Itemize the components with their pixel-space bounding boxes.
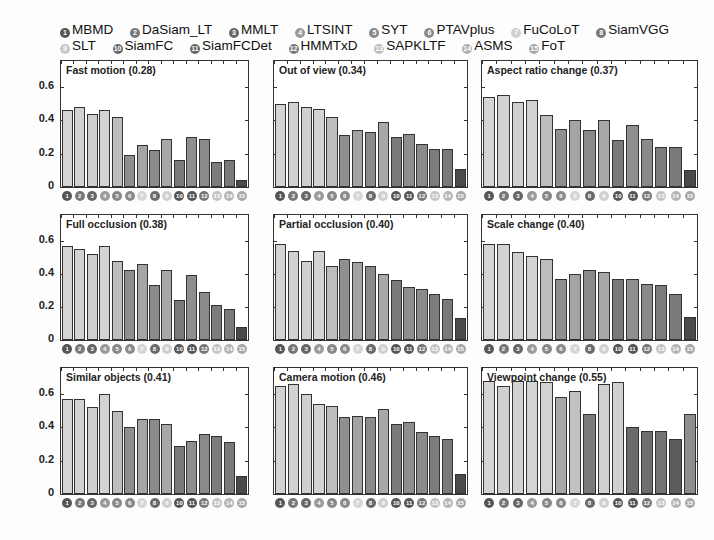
tracker-number-badge-icon: 8 — [366, 344, 376, 354]
legend-item: 5SYT — [369, 22, 407, 38]
tracker-number-badge-icon: 12 — [199, 344, 209, 354]
tracker-number-badge-icon: 15 — [237, 498, 247, 508]
legend-item: 15FoT — [529, 38, 565, 54]
bar — [112, 411, 123, 494]
legend-badge-icon: 1 — [60, 28, 70, 38]
tracker-number-badge-icon: 9 — [599, 191, 609, 201]
bar — [569, 391, 582, 494]
tracker-number-badge-icon: 9 — [378, 344, 388, 354]
tracker-number-badge-icon: 15 — [685, 498, 695, 508]
tracker-number-badge-icon: 7 — [137, 498, 147, 508]
bar — [378, 122, 389, 187]
x-tick-mark — [186, 215, 187, 218]
tracker-number-badge-icon: 2 — [288, 191, 298, 201]
tracker-number-badge-icon: 11 — [404, 191, 414, 201]
x-tick-mark — [161, 61, 162, 64]
bar — [326, 266, 337, 341]
bar — [326, 117, 337, 187]
tracker-number-badge-icon: 8 — [150, 191, 160, 201]
x-tick-mark — [625, 368, 626, 371]
bar — [186, 137, 197, 187]
x-tick-mark — [467, 368, 468, 371]
tracker-number-badge-icon: 10 — [613, 344, 623, 354]
bar — [224, 442, 235, 494]
chart-title: Full occlusion (0.38) — [66, 218, 167, 230]
x-tick-mark — [111, 61, 112, 64]
bar — [512, 102, 525, 187]
y-tick-mark — [464, 120, 467, 121]
x-tick-mark — [525, 368, 526, 371]
legend-badge-icon: 15 — [529, 44, 539, 54]
x-tick-mark — [511, 61, 512, 64]
x-tick-mark — [582, 368, 583, 371]
y-tick-mark — [464, 461, 467, 462]
tracker-number-badge-icon: 2 — [288, 498, 298, 508]
tracker-number-badge-icon: 4 — [527, 344, 537, 354]
tracker-number-badge-icon: 9 — [162, 344, 172, 354]
x-tick-mark — [683, 215, 684, 218]
x-tick-mark — [313, 215, 314, 218]
legend-item: 14ASMS — [462, 38, 512, 54]
legend-item: 2DaSiam_LT — [130, 22, 212, 38]
x-tick-mark — [198, 61, 199, 64]
x-tick-mark — [338, 368, 339, 371]
y-tick-mark — [245, 427, 248, 428]
chart-panel: Out of view (0.34) — [273, 60, 468, 188]
tracker-number-badge-icon: 6 — [340, 498, 350, 508]
x-tick-mark — [625, 61, 626, 64]
tracker-number-badge-icon: 3 — [513, 344, 523, 354]
x-tick-mark — [287, 61, 288, 64]
bar — [540, 115, 553, 187]
x-tick-mark — [287, 215, 288, 218]
bar — [526, 381, 539, 494]
chart-title: Out of view (0.34) — [279, 64, 366, 76]
bar — [301, 107, 312, 187]
y-tick-label: 0.4 — [30, 112, 54, 124]
x-tick-mark — [597, 215, 598, 218]
bar — [199, 434, 210, 494]
tracker-number-badge-icon: 4 — [100, 344, 110, 354]
legend-badge-icon: 9 — [60, 44, 70, 54]
tracker-number-badge-icon: 5 — [327, 344, 337, 354]
x-tick-mark — [325, 215, 326, 218]
bar — [236, 476, 247, 494]
bar — [641, 284, 654, 340]
x-tick-mark — [198, 368, 199, 371]
bar — [403, 287, 414, 340]
tracker-number-badge-icon: 15 — [685, 344, 695, 354]
x-axis-badges: 123456789101112131415 — [482, 344, 697, 354]
bar — [483, 244, 496, 340]
x-tick-mark — [416, 215, 417, 218]
x-tick-mark — [554, 368, 555, 371]
tracker-number-badge-icon: 14 — [443, 344, 453, 354]
tracker-number-badge-icon: 2 — [499, 191, 509, 201]
tracker-number-badge-icon: 6 — [125, 344, 135, 354]
x-tick-mark — [640, 61, 641, 64]
bar — [416, 289, 427, 340]
x-tick-mark — [441, 61, 442, 64]
tracker-number-badge-icon: 9 — [162, 498, 172, 508]
tracker-number-badge-icon: 14 — [671, 191, 681, 201]
x-tick-mark — [511, 215, 512, 218]
x-tick-mark — [248, 61, 249, 64]
x-tick-mark — [313, 61, 314, 64]
tracker-number-badge-icon: 5 — [112, 498, 122, 508]
y-tick-mark — [245, 307, 248, 308]
bar — [161, 424, 172, 494]
tracker-number-badge-icon: 13 — [212, 498, 222, 508]
y-tick-mark — [464, 274, 467, 275]
legend-row-1: 1MBMD 2DaSiam_LT 3MMLT 4LTSINT 5SYT 6PTA… — [60, 22, 710, 38]
x-tick-mark — [654, 61, 655, 64]
tracker-number-badge-icon: 12 — [642, 498, 652, 508]
x-tick-mark — [236, 61, 237, 64]
legend-badge-icon: 14 — [462, 44, 472, 54]
bar — [626, 125, 639, 187]
x-tick-mark — [325, 61, 326, 64]
x-axis-badges: 123456789101112131415 — [482, 191, 697, 201]
legend-label: ASMS — [474, 38, 512, 53]
chart-title: Partial occlusion (0.40) — [279, 218, 393, 230]
x-tick-mark — [148, 215, 149, 218]
x-tick-mark — [123, 61, 124, 64]
tracker-number-badge-icon: 9 — [599, 498, 609, 508]
bar — [365, 266, 376, 341]
